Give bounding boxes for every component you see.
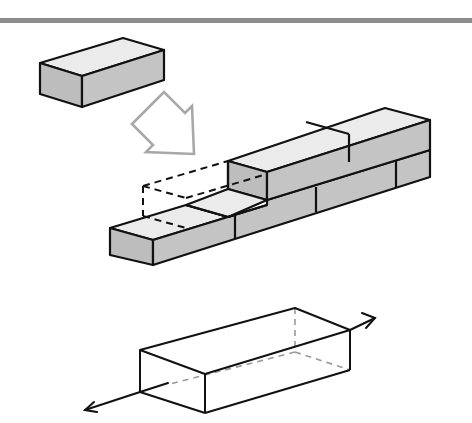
placement-arrow-icon bbox=[132, 92, 194, 154]
axis-arrow-icon bbox=[85, 313, 375, 412]
brick-diagram bbox=[0, 0, 472, 423]
diagram-canvas bbox=[0, 0, 472, 423]
single-brick bbox=[40, 38, 164, 107]
wireframe-brick bbox=[85, 308, 375, 413]
hidden-edge bbox=[295, 352, 350, 370]
